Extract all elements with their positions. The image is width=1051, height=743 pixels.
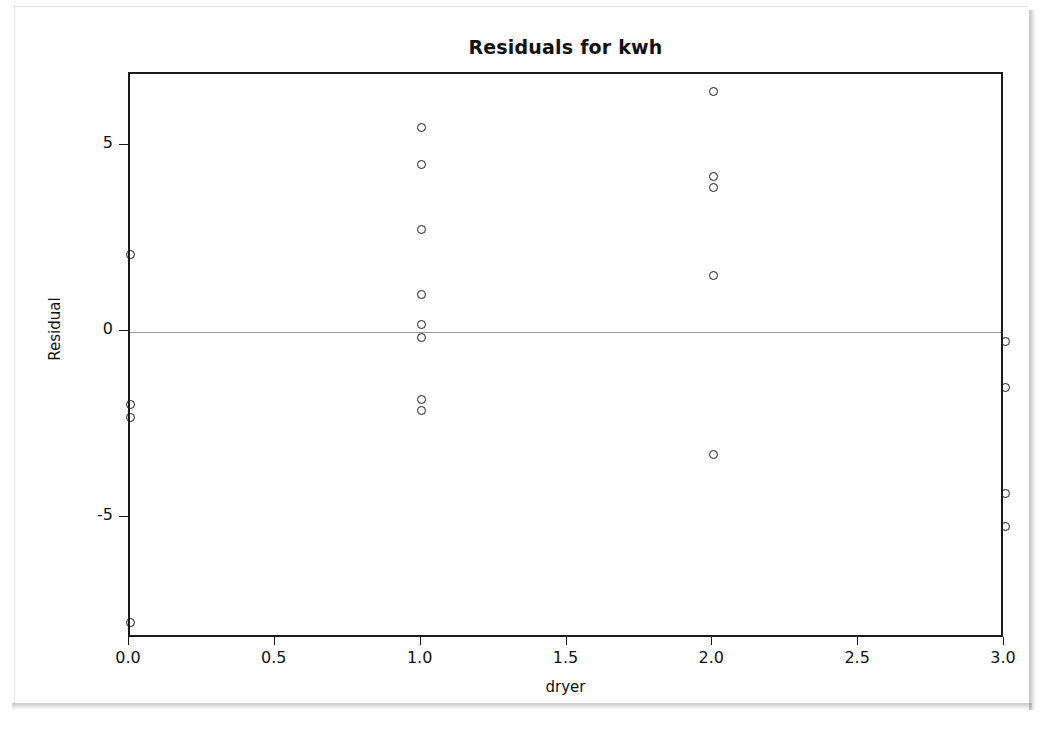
- x-axis-tick: [274, 637, 275, 645]
- y-axis-tick-label: -5: [69, 505, 113, 524]
- x-axis-tick: [711, 637, 712, 645]
- x-axis-label: dryer: [128, 678, 1003, 696]
- y-axis-tick: [119, 144, 128, 145]
- data-point: [126, 250, 135, 259]
- plot-area: [128, 72, 1003, 637]
- data-point: [417, 225, 426, 234]
- x-axis-tick: [566, 637, 567, 645]
- x-axis-tick-label: 3.0: [973, 648, 1033, 667]
- x-axis-tick-label: 2.5: [827, 648, 887, 667]
- y-axis-label: Residual: [46, 269, 64, 389]
- scanned-page: Residuals for kwh 0.00.51.01.52.02.53.0 …: [0, 0, 1051, 743]
- y-axis-tick-label: 0: [69, 319, 113, 338]
- data-point: [417, 160, 426, 169]
- data-point: [709, 87, 718, 96]
- data-point: [709, 183, 718, 192]
- data-point: [417, 395, 426, 404]
- y-axis-tick: [119, 330, 128, 331]
- data-point: [126, 618, 135, 627]
- zero-reference-line: [130, 332, 1001, 333]
- y-axis-tick-label: 5: [69, 133, 113, 152]
- x-axis-tick: [857, 637, 858, 645]
- data-point: [417, 290, 426, 299]
- data-point: [1001, 383, 1010, 392]
- data-point: [417, 123, 426, 132]
- x-axis-tick: [1003, 637, 1004, 645]
- data-point: [709, 172, 718, 181]
- data-point: [709, 271, 718, 280]
- x-axis-tick-label: 2.0: [681, 648, 741, 667]
- data-point: [126, 413, 135, 422]
- data-point: [1001, 337, 1010, 346]
- x-axis-tick-label: 0.5: [244, 648, 304, 667]
- data-point: [417, 320, 426, 329]
- data-point: [126, 400, 135, 409]
- x-axis-tick: [128, 637, 129, 645]
- data-point: [417, 406, 426, 415]
- chart-title: Residuals for kwh: [128, 36, 1003, 58]
- x-axis-tick-label: 1.0: [390, 648, 450, 667]
- y-axis-tick: [119, 516, 128, 517]
- residuals-scatter-chart: Residuals for kwh 0.00.51.01.52.02.53.0 …: [0, 0, 1051, 743]
- x-axis-tick-label: 0.0: [98, 648, 158, 667]
- data-point: [1001, 489, 1010, 498]
- data-point: [1001, 522, 1010, 531]
- x-axis-tick: [420, 637, 421, 645]
- data-point: [709, 450, 718, 459]
- data-point: [417, 333, 426, 342]
- x-axis-tick-label: 1.5: [536, 648, 596, 667]
